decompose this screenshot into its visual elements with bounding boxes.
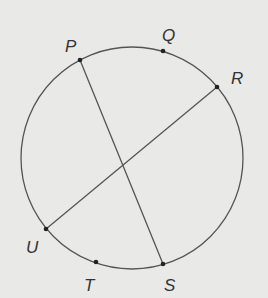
label-r: R [231,70,243,87]
point-r [215,85,220,90]
point-u [44,227,49,232]
label-q: Q [162,27,175,44]
point-p [78,58,83,63]
chord-ps [80,60,163,264]
circle-diagram: P Q R S T U [0,0,268,298]
chord-ru [46,87,217,229]
label-s: S [164,277,175,294]
point-t [94,260,99,265]
point-q [161,49,166,54]
label-p: P [65,38,76,55]
label-u: U [26,239,38,256]
label-t: T [84,277,94,294]
point-s [161,262,166,267]
diagram-svg [0,0,268,298]
